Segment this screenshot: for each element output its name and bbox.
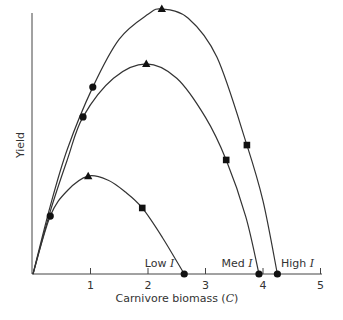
region-label-low: Low I	[145, 257, 175, 270]
marker-high-i-circle-0	[89, 84, 96, 91]
marker-med-i-square-2	[223, 157, 230, 164]
marker-low-i-square-2	[139, 205, 146, 212]
marker-med-i-triangle-1	[142, 59, 150, 66]
y-axis-label: Yield	[14, 132, 27, 159]
axes	[32, 13, 322, 274]
marker-low-i-circle-3	[181, 270, 188, 277]
curves	[33, 9, 277, 274]
marker-med-i-circle-0	[79, 113, 86, 120]
curve-high-i	[33, 9, 277, 274]
x-axis-label-text: Carnivore biomass (	[116, 292, 226, 305]
x-tick-label-2: 2	[145, 279, 152, 292]
marker-high-i-circle-3	[274, 270, 281, 277]
region-label-high: High I	[281, 257, 315, 270]
region-labels: Low IMed IHigh I	[145, 257, 315, 270]
x-ticks: 12345	[87, 268, 324, 292]
x-axis-label: Carnivore biomass (C)	[116, 292, 239, 305]
x-tick-label-5: 5	[317, 279, 324, 292]
x-tick-label-4: 4	[260, 279, 267, 292]
marker-low-i-circle-0	[47, 212, 54, 219]
yield-vs-carnivore-biomass-chart: 12345 Low IMed IHigh I Yield Carnivore b…	[0, 0, 343, 320]
marker-high-i-square-2	[244, 142, 251, 149]
x-tick-label-1: 1	[87, 279, 94, 292]
curve-med-i	[33, 64, 259, 274]
x-tick-label-3: 3	[202, 279, 209, 292]
x-axis-label-paren: )	[234, 292, 238, 305]
region-label-med: Med I	[222, 257, 254, 270]
marker-med-i-circle-3	[255, 270, 262, 277]
